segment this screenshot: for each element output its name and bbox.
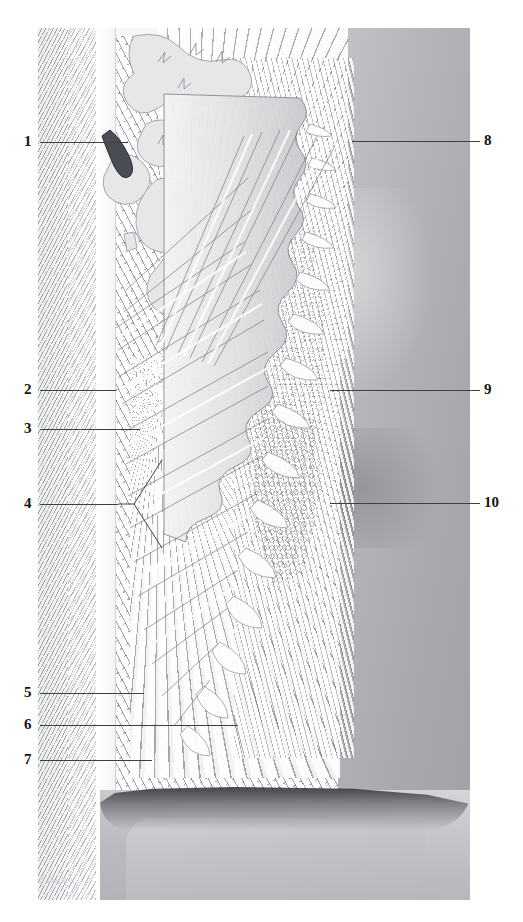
top-caption-strip bbox=[0, 0, 523, 16]
callout-number-8: 8 bbox=[484, 133, 492, 148]
callout-leader-line-9 bbox=[330, 390, 480, 391]
callout-leader-line-8 bbox=[352, 141, 480, 142]
callout-leader-line-3 bbox=[40, 429, 140, 430]
callout-number-2: 2 bbox=[24, 382, 32, 397]
callout-number-1: 1 bbox=[24, 134, 32, 149]
callout-number-3: 3 bbox=[24, 421, 32, 436]
callout-leader-line-2 bbox=[40, 390, 116, 391]
callout-leader-fork-4 bbox=[118, 456, 164, 552]
callout-number-6: 6 bbox=[24, 717, 32, 732]
callout-leader-line-5 bbox=[40, 693, 144, 694]
artist-signature: © Duckett bbox=[38, 876, 75, 885]
callout-number-7: 7 bbox=[24, 752, 32, 767]
callout-number-10: 10 bbox=[484, 495, 499, 510]
callout-leader-line-1 bbox=[40, 142, 128, 143]
callout-leader-line-6 bbox=[40, 725, 238, 726]
callout-number-5: 5 bbox=[24, 685, 32, 700]
callout-number-4: 4 bbox=[24, 496, 32, 511]
illustration-page: © Duckett 12345678910 bbox=[0, 0, 523, 922]
callout-leader-line-10 bbox=[330, 503, 480, 504]
callout-leader-line-7 bbox=[40, 760, 152, 761]
anatomical-illustration-plate: © Duckett bbox=[38, 28, 470, 900]
callout-number-9: 9 bbox=[484, 382, 492, 397]
fiber-stroke-overlay bbox=[38, 28, 470, 900]
callout-leader-line-4 bbox=[40, 504, 118, 505]
